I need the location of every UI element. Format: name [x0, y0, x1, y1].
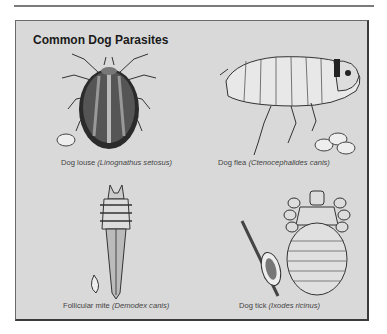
- caption-dog-louse: Dog louse (Linognathus setosus): [61, 158, 172, 167]
- mite-illustration: [86, 181, 146, 301]
- caption-dog-flea: Dog flea (Ctenocephalides canis): [218, 158, 330, 167]
- caption-follicular-mite: Follicular mite (Demodex canis): [63, 301, 169, 310]
- top-divider: [14, 5, 374, 7]
- parasites-panel: Common Dog Parasites Dog louse (Linognat…: [15, 20, 369, 321]
- panel-title: Common Dog Parasites: [33, 33, 168, 47]
- caption-dog-tick: Dog tick (Ixodes ricinus): [239, 301, 320, 310]
- louse-illustration: [238, 181, 358, 299]
- flea-illustration: [216, 51, 366, 161]
- tick-body-illustration: [54, 51, 164, 156]
